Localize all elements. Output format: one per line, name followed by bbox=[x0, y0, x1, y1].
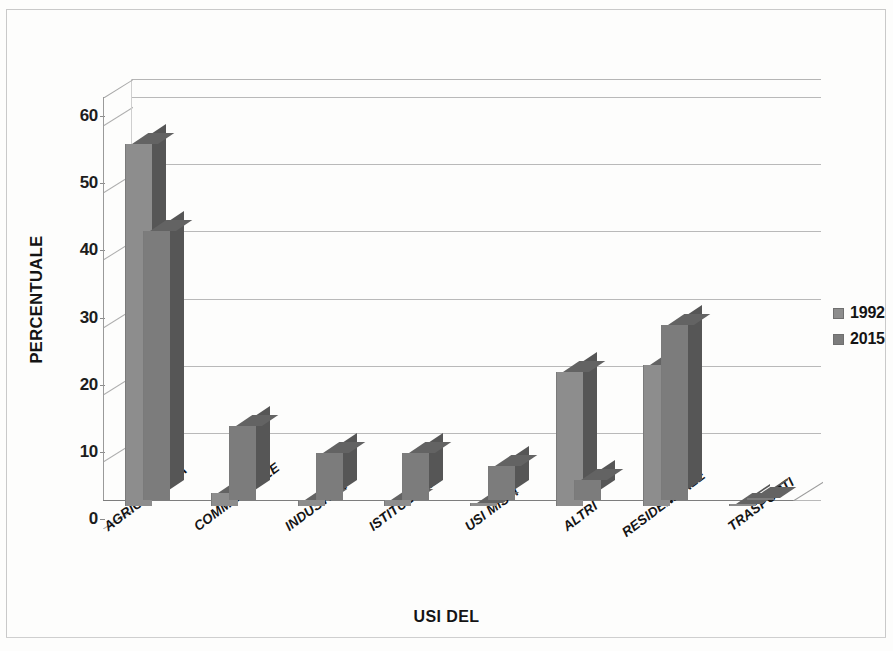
y-tick-label-wrap-60: 60 bbox=[45, 106, 98, 126]
bar-side-face bbox=[169, 211, 184, 490]
y-tick-label-wrap-20: 20 bbox=[45, 375, 98, 395]
bar-2015-residenziale bbox=[661, 314, 687, 500]
bar-top-face bbox=[668, 314, 710, 325]
gridline-depth-connector-60 bbox=[103, 106, 133, 126]
plot-depth-edge bbox=[103, 79, 133, 98]
bar-side-face bbox=[514, 446, 529, 490]
bar-top-face bbox=[409, 442, 451, 453]
bar-front-face bbox=[402, 453, 429, 500]
y-tick-label-wrap-40: 40 bbox=[45, 240, 98, 260]
bar-top-face bbox=[323, 442, 365, 453]
legend-label-1992: 1992 bbox=[850, 304, 885, 322]
bar-front-face bbox=[574, 480, 601, 500]
bar-2015-commerciale bbox=[229, 415, 255, 500]
bar-front-face bbox=[661, 325, 688, 500]
legend-swatch-2015 bbox=[833, 334, 844, 345]
legend-item-2015: 2015 bbox=[833, 326, 885, 352]
y-tick-label-0: 0 bbox=[54, 509, 98, 529]
plot-floor-right-edge bbox=[793, 481, 823, 501]
gridline-40 bbox=[131, 231, 821, 232]
gridline-30 bbox=[131, 299, 821, 300]
legend-label-2015: 2015 bbox=[850, 330, 885, 348]
bar-2015-trasporti bbox=[747, 487, 773, 500]
y-tick-label-50: 50 bbox=[54, 173, 98, 193]
bar-2015-usi-misti bbox=[488, 455, 514, 500]
y-tick-label-40: 40 bbox=[54, 240, 98, 260]
plot-area: 0102030405060 AGRICOLTURACOMMERCIALEINDU… bbox=[0, 0, 893, 651]
legend: 1992 2015 bbox=[833, 300, 885, 352]
y-tick-label-60: 60 bbox=[54, 106, 98, 126]
y-tick-label-30: 30 bbox=[54, 308, 98, 328]
bar-2015-istituzione bbox=[402, 442, 428, 500]
bar-side-face bbox=[687, 305, 702, 490]
legend-item-1992: 1992 bbox=[833, 300, 885, 326]
y-tick-label-wrap-30: 30 bbox=[45, 308, 98, 328]
gridline-50 bbox=[131, 164, 821, 165]
gridline-60 bbox=[131, 97, 821, 98]
bar-top-face bbox=[754, 487, 796, 498]
bar-front-face bbox=[316, 453, 343, 500]
bar-front-face bbox=[384, 500, 411, 507]
bar-front-face bbox=[729, 504, 756, 506]
plot-back-wall-top bbox=[131, 79, 821, 80]
bar-top-face bbox=[495, 455, 537, 466]
y-tick-label-wrap-0: 0 bbox=[45, 509, 98, 529]
y-axis-title: PERCENTUALE bbox=[27, 185, 46, 415]
y-axis-line bbox=[103, 97, 104, 501]
bar-front-face bbox=[470, 503, 497, 506]
bar-2015-altri bbox=[574, 469, 600, 500]
gridline-20 bbox=[131, 366, 821, 367]
bar-top-face bbox=[132, 133, 174, 144]
bar-front-face bbox=[747, 498, 774, 500]
chart-page: 0102030405060 AGRICOLTURACOMMERCIALEINDU… bbox=[0, 0, 893, 651]
legend-swatch-1992 bbox=[833, 308, 844, 319]
y-tick-label-20: 20 bbox=[54, 375, 98, 395]
bar-top-face bbox=[150, 220, 192, 231]
bar-top-face bbox=[581, 469, 623, 480]
bar-top-face bbox=[236, 415, 278, 426]
bar-2015-industrie bbox=[316, 442, 342, 500]
bar-front-face bbox=[143, 231, 170, 500]
bar-front-face bbox=[229, 426, 256, 500]
y-tick-label-wrap-50: 50 bbox=[45, 173, 98, 193]
y-tick-label-10: 10 bbox=[54, 442, 98, 462]
bar-2015-agricoltura bbox=[143, 220, 169, 500]
x-axis-title: USI DEL bbox=[0, 608, 893, 626]
plot-floor-front-edge bbox=[103, 500, 794, 501]
y-tick-label-wrap-10: 10 bbox=[45, 442, 98, 462]
bar-front-face bbox=[298, 500, 325, 507]
bar-front-face bbox=[488, 466, 515, 500]
